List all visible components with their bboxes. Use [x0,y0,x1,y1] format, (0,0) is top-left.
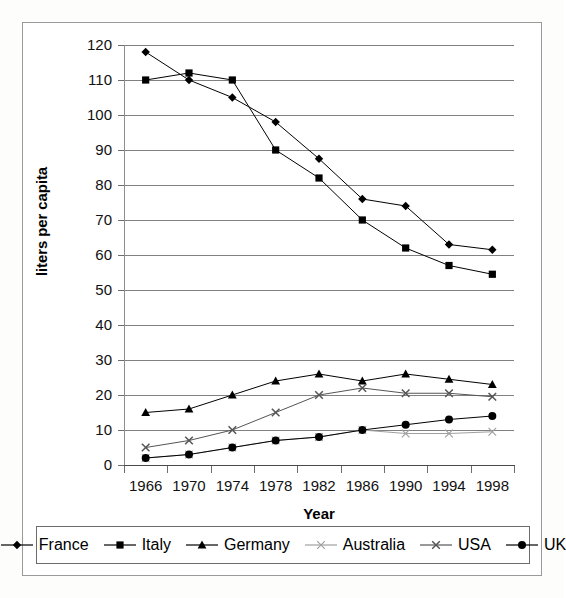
x-tick-mark [514,466,515,473]
y-tick-label: 0 [72,457,112,472]
series-italy [142,69,496,277]
x-tick-mark [427,466,428,473]
series-usa [142,384,496,451]
legend-item-france[interactable]: France [0,537,89,553]
legend-label: UK [539,537,566,553]
legend-label: Australia [338,537,405,553]
series-france [141,48,496,254]
x-tick-mark [254,466,255,473]
y-tick-label: 60 [72,247,112,262]
series-uk [142,412,497,462]
x-axis-line [124,465,515,466]
legend-item-italy[interactable]: Italy [103,537,171,553]
legend-marker-x-dark-icon [419,538,453,552]
y-tick-label: 120 [72,37,112,52]
legend-item-usa[interactable]: USA [419,537,491,553]
x-axis-title: Year [124,505,514,522]
legend-marker-square-icon [103,538,137,552]
series-australia [142,426,496,462]
y-axis-title: liters per capita [33,132,50,312]
y-tick-label: 50 [72,282,112,297]
x-tick-mark [297,466,298,473]
y-tick-label: 40 [72,317,112,332]
y-tick-label: 80 [72,177,112,192]
x-tick-mark [471,466,472,473]
y-tick-label: 100 [72,107,112,122]
y-tick-label: 110 [72,72,112,87]
y-tick-label: 30 [72,352,112,367]
legend-label: France [34,537,89,553]
y-tick-label: 90 [72,142,112,157]
chart-legend: FranceItalyGermanyAustraliaUSAUK [36,526,530,564]
legend-label: Italy [137,537,171,553]
legend-item-uk[interactable]: UK [505,537,566,553]
legend-marker-circle-icon [505,538,539,552]
chart-frame: liters per capita 0102030405060708090100… [22,22,542,576]
plot-area [124,45,514,465]
legend-label: Germany [219,537,290,553]
legend-label: USA [453,537,491,553]
plot-wrapper: liters per capita 0102030405060708090100… [23,23,543,493]
legend-marker-x-light-icon [304,538,338,552]
x-tick-mark [211,466,212,473]
x-tick-mark [124,466,125,473]
series-layer [124,45,514,465]
legend-item-australia[interactable]: Australia [304,537,405,553]
x-tick-mark [341,466,342,473]
legend-marker-diamond-icon [0,538,34,552]
legend-item-germany[interactable]: Germany [185,537,290,553]
x-tick-mark [384,466,385,473]
y-tick-label: 70 [72,212,112,227]
x-tick-label: 1998 [462,478,522,494]
legend-marker-triangle-icon [185,538,219,552]
x-tick-mark [167,466,168,473]
y-tick-label: 20 [72,387,112,402]
y-tick-label: 10 [72,422,112,437]
